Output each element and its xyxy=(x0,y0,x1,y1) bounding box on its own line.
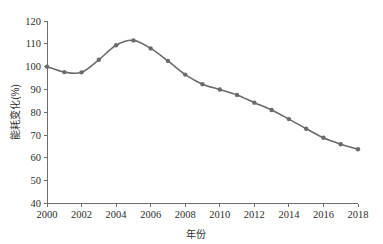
x-tick-label: 2006 xyxy=(140,209,161,220)
series-line-energy-change xyxy=(47,40,358,149)
data-point-marker xyxy=(45,64,49,68)
data-point-marker xyxy=(97,58,101,62)
y-tick-label: 120 xyxy=(25,16,41,27)
data-point-marker xyxy=(339,142,343,146)
data-point-markers xyxy=(45,38,360,151)
axes xyxy=(47,21,358,204)
data-point-marker xyxy=(79,70,83,74)
y-tick-label: 100 xyxy=(25,61,41,72)
y-tick-label: 90 xyxy=(31,84,42,95)
data-point-marker xyxy=(252,100,256,104)
x-axis-ticks: 2000200220042006200820102012201420162018 xyxy=(37,204,369,221)
data-point-marker xyxy=(183,72,187,76)
x-tick-label: 2016 xyxy=(313,209,334,220)
y-axis-title: 能耗变化(%) xyxy=(9,84,21,140)
x-axis-title: 年份 xyxy=(186,228,206,240)
y-tick-label: 110 xyxy=(26,38,41,49)
data-point-marker xyxy=(166,59,170,63)
x-tick-label: 2000 xyxy=(37,209,58,220)
y-axis-ticks: 405060708090100110120 xyxy=(25,16,47,210)
x-tick-label: 2012 xyxy=(244,209,265,220)
y-tick-label: 50 xyxy=(31,175,42,186)
chart-canvas: 405060708090100110120 200020022004200620… xyxy=(0,0,383,244)
x-tick-label: 2014 xyxy=(278,209,300,220)
y-tick-label: 70 xyxy=(31,130,42,141)
x-tick-label: 2010 xyxy=(209,209,230,220)
data-series xyxy=(47,40,358,149)
data-point-marker xyxy=(269,108,273,112)
data-point-marker xyxy=(218,87,222,91)
x-tick-label: 2004 xyxy=(106,209,128,220)
data-point-marker xyxy=(62,70,66,74)
data-point-marker xyxy=(200,82,204,86)
y-tick-label: 40 xyxy=(31,198,42,209)
x-tick-label: 2008 xyxy=(175,209,196,220)
data-point-marker xyxy=(356,147,360,151)
data-point-marker xyxy=(321,136,325,140)
x-tick-label: 2002 xyxy=(71,209,92,220)
data-point-marker xyxy=(114,43,118,47)
data-point-marker xyxy=(131,38,135,42)
energy-consumption-line-chart: 405060708090100110120 200020022004200620… xyxy=(0,0,383,244)
y-tick-label: 80 xyxy=(31,107,42,118)
y-tick-label: 60 xyxy=(31,152,42,163)
data-point-marker xyxy=(287,117,291,121)
data-point-marker xyxy=(304,126,308,130)
x-tick-label: 2018 xyxy=(348,209,369,220)
data-point-marker xyxy=(235,93,239,97)
data-point-marker xyxy=(148,46,152,50)
